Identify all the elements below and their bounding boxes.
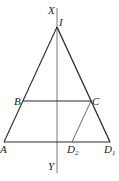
label-c: C	[92, 95, 100, 107]
label-d2-main: D	[66, 143, 75, 155]
label-x: X	[47, 4, 56, 16]
side-ia	[4, 27, 57, 142]
label-d2-sub: 2	[75, 149, 79, 157]
label-d1: D1	[103, 143, 115, 157]
label-a: A	[0, 143, 7, 155]
label-d1-sub: 1	[112, 149, 116, 157]
geometry-diagram: X I B C A D2 D1 Y	[0, 0, 119, 181]
label-y: Y	[48, 160, 56, 172]
label-b: B	[14, 95, 21, 107]
side-id1	[57, 27, 110, 142]
segment-cd2	[72, 101, 91, 142]
label-i: I	[58, 16, 64, 28]
label-d1-main: D	[103, 143, 112, 155]
label-d2: D2	[66, 143, 79, 157]
